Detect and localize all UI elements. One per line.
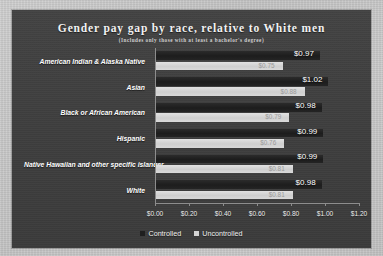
chart-row: White$0.98$0.81 (24, 177, 359, 203)
legend-label: Controlled (148, 229, 181, 238)
category-label: Native Hawaiian and other specific islan… (24, 161, 150, 168)
bar-value-controlled: $0.98 (296, 178, 316, 187)
bar-group: $0.98$0.79 (155, 100, 359, 126)
bar-group: $0.99$0.81 (155, 151, 359, 177)
x-tick-label: $0.20 (181, 210, 198, 217)
x-tick-mark (223, 203, 224, 206)
chart-row: Asian$1.02$0.88 (24, 74, 359, 100)
x-tick-mark (189, 203, 190, 206)
chart-row: American Indian & Alaska Native$0.97$0.7… (24, 48, 359, 74)
bar-value-uncontrolled: $0.88 (281, 88, 297, 95)
bar-group: $0.99$0.76 (155, 125, 359, 151)
legend-label: Uncontrolled (202, 229, 242, 238)
y-axis-line (155, 48, 156, 204)
x-tick-label: $0.00 (147, 210, 164, 217)
bar-value-controlled: $0.98 (296, 101, 316, 110)
x-tick-label: $0.60 (249, 210, 266, 217)
bar-group: $1.02$0.88 (155, 74, 359, 100)
chart-row: Native Hawaiian and other specific islan… (24, 151, 359, 177)
x-tick-label: $1.20 (351, 210, 368, 217)
legend-swatch-icon (194, 231, 199, 236)
bar-value-uncontrolled: $0.81 (269, 191, 285, 198)
bar-value-uncontrolled: $0.81 (269, 165, 285, 172)
bar-value-uncontrolled: $0.75 (259, 62, 275, 69)
legend-item[interactable]: Uncontrolled (194, 229, 242, 238)
chart-subtitle: (Includes only those with at least a bac… (12, 37, 371, 43)
chart-panel: Gender pay gap by race, relative to Whit… (12, 10, 371, 248)
chart-row: Hispanic$0.99$0.76 (24, 125, 359, 151)
bar-group: $0.98$0.81 (155, 177, 359, 203)
chart-title: Gender pay gap by race, relative to Whit… (12, 22, 371, 34)
category-label: Asian (24, 83, 150, 90)
bar-value-uncontrolled: $0.76 (260, 139, 276, 146)
x-axis-ticks: $0.00$0.20$0.40$0.60$0.80$1.00$1.20 (155, 206, 359, 220)
chart-row: Black or African American$0.98$0.79 (24, 100, 359, 126)
bar-value-controlled: $1.02 (302, 75, 322, 84)
bar-value-controlled: $0.97 (294, 49, 314, 58)
x-tick-mark (291, 203, 292, 206)
bar-value-controlled: $0.99 (297, 152, 317, 161)
x-tick-mark (359, 203, 360, 206)
x-tick-label: $0.40 (215, 210, 232, 217)
category-label: Black or African American (24, 109, 150, 116)
category-label: American Indian & Alaska Native (24, 57, 150, 64)
x-tick-mark (325, 203, 326, 206)
bar-value-controlled: $0.99 (297, 127, 317, 136)
bar-value-uncontrolled: $0.79 (265, 113, 281, 120)
legend-swatch-icon (140, 231, 145, 236)
bar-group: $0.97$0.75 (155, 48, 359, 74)
x-tick-mark (155, 203, 156, 206)
legend-item[interactable]: Controlled (140, 229, 181, 238)
x-tick-mark (257, 203, 258, 206)
plot-area: American Indian & Alaska Native$0.97$0.7… (24, 48, 359, 203)
x-tick-label: $0.80 (283, 210, 300, 217)
category-label: Hispanic (24, 135, 150, 142)
x-tick-label: $1.00 (317, 210, 334, 217)
chart-legend: ControlledUncontrolled (12, 229, 371, 238)
category-label: White (24, 186, 150, 193)
